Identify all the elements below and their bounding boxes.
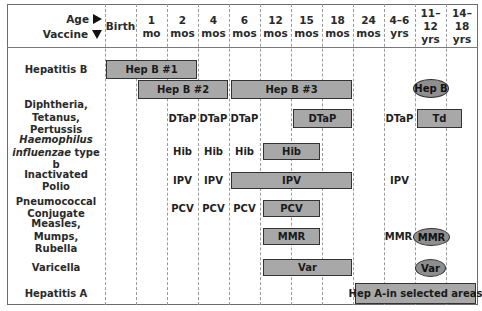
column-divider xyxy=(446,4,447,305)
column-divider xyxy=(260,4,261,305)
age-header-birth: Birth xyxy=(105,6,136,47)
row-label-text: Tetanus, xyxy=(32,112,80,125)
bar-label: Hep A-in selected areas xyxy=(349,288,482,299)
bar-label: Hep B #3 xyxy=(265,84,317,95)
range-bar-hepa: Hep A-in selected areas xyxy=(355,283,476,304)
age-header-unit: yrs xyxy=(421,33,439,46)
bar-label: DTaP xyxy=(309,113,337,124)
catch-up-oval-hepb: Hep B xyxy=(413,79,449,98)
dose-ipv-2mos: IPV xyxy=(167,175,198,187)
triangle-down-icon xyxy=(92,30,102,39)
dose-pcv-4mos: PCV xyxy=(198,203,229,215)
row-label-hepatitis-a: Hepatitis A xyxy=(10,286,102,302)
catch-up-oval-var: Var xyxy=(415,259,446,277)
dose-dtap-4-6yrs: DTaP xyxy=(384,113,415,125)
row-label-text: Rubella xyxy=(35,243,77,256)
dose-mmr-4-6yrs: MMR xyxy=(383,231,414,243)
dose-hib-2mos: Hib xyxy=(167,146,198,158)
catch-up-oval-mmr: MMR xyxy=(413,228,450,246)
range-bar-hepb1: Hep B #1 xyxy=(106,60,197,79)
age-header-text: Birth xyxy=(106,20,135,33)
row-label-text: Measles, Mumps, xyxy=(10,218,102,243)
age-header-unit: mos xyxy=(325,27,349,40)
age-header-text: 15 xyxy=(299,14,314,27)
row-label-text: influenzae xyxy=(12,147,71,158)
row-label-text: Polio xyxy=(42,181,70,194)
age-header-4mos: 4mos xyxy=(198,6,229,47)
age-header-unit: mos xyxy=(170,27,194,40)
age-header-unit: mos xyxy=(232,27,256,40)
age-header-text: 2 xyxy=(179,14,186,27)
age-header-unit: mos xyxy=(201,27,225,40)
bar-label: Hep B #2 xyxy=(157,84,209,95)
age-axis-label: Age xyxy=(66,12,89,27)
row-label-text: Inactivated xyxy=(24,169,88,182)
vaccine-axis-label: Vaccine xyxy=(43,27,88,42)
row-label-text: Diphtheria, xyxy=(24,99,88,112)
range-bar-hepb3: Hep B #3 xyxy=(231,80,352,99)
age-header-text: 4–6 xyxy=(390,14,410,27)
age-header-14-18yrs: 14–18yrs xyxy=(446,6,478,47)
row-label-varicella: Varicella xyxy=(10,260,102,276)
age-header-text: 18 xyxy=(330,14,345,27)
bar-label: Var xyxy=(298,262,317,273)
dose-dtap-4mos: DTaP xyxy=(198,113,229,125)
age-header-18mos: 18mos xyxy=(322,6,353,47)
dose-pcv-2mos: PCV xyxy=(167,203,198,215)
row-label-text: Hepatitis A xyxy=(25,288,88,301)
dose-pcv-6mos: PCV xyxy=(229,203,260,215)
oval-label: MMR xyxy=(418,232,446,243)
dose-dtap-6mos: DTaP xyxy=(229,113,260,125)
age-header-15mos: 15mos xyxy=(291,6,322,47)
bar-label: Hep B #1 xyxy=(125,64,177,75)
age-header-unit: mos xyxy=(294,27,318,40)
header-divider xyxy=(7,47,478,48)
triangle-right-icon xyxy=(93,14,102,24)
range-bar-dtap: DTaP xyxy=(293,109,352,128)
age-header-text: 24 xyxy=(361,14,376,27)
range-bar-hepb2: Hep B #2 xyxy=(138,80,228,99)
range-bar-hib: Hib xyxy=(263,143,320,160)
row-label-mmr: Measles, Mumps, Rubella xyxy=(10,224,102,250)
row-label-hib: Haemophilus influenzae type b xyxy=(10,140,102,166)
column-divider xyxy=(105,4,106,305)
age-header-unit: mos xyxy=(356,27,380,40)
column-divider xyxy=(415,4,416,305)
column-divider xyxy=(353,4,354,305)
range-bar-pcv: PCV xyxy=(263,200,320,217)
range-bar-mmr: MMR xyxy=(263,228,320,245)
oval-label: Hep B xyxy=(414,83,447,94)
age-header-text: 14–18 xyxy=(446,7,478,33)
column-divider xyxy=(384,4,385,305)
age-header-24mos: 24mos xyxy=(353,6,384,47)
bar-label: Td xyxy=(433,113,447,124)
bar-label: IPV xyxy=(282,175,301,186)
dose-dtap-2mos: DTaP xyxy=(167,113,198,125)
row-label-text: Haemophilus xyxy=(19,134,92,147)
age-header-11-12yrs: 11–12yrs xyxy=(415,6,446,47)
row-label-text: Pneumococcal xyxy=(16,196,96,209)
age-header-text: 11–12 xyxy=(415,7,446,33)
age-header-unit: mos xyxy=(263,27,287,40)
dose-hib-4mos: Hib xyxy=(198,146,229,158)
dose-ipv-4-6yrs: IPV xyxy=(384,175,415,187)
bar-label: MMR xyxy=(278,231,306,242)
bar-label: PCV xyxy=(280,203,302,214)
oval-label: Var xyxy=(421,263,440,274)
age-header-1mo: 1mo xyxy=(136,6,167,47)
row-label-polio: Inactivated Polio xyxy=(10,168,102,194)
range-bar-var: Var xyxy=(263,259,352,276)
age-header-unit: yrs xyxy=(453,33,471,46)
age-header-6mos: 6mos xyxy=(229,6,260,47)
corner-header: Age Vaccine xyxy=(10,6,102,47)
range-bar-ipv: IPV xyxy=(231,172,352,189)
age-header-text: 12 xyxy=(268,14,283,27)
row-label-hepatitis-b: Hepatitis B xyxy=(10,62,102,78)
age-header-unit: yrs xyxy=(390,27,408,40)
column-divider xyxy=(136,4,137,305)
bar-label: Hib xyxy=(282,146,301,157)
dose-ipv-4mos: IPV xyxy=(198,175,229,187)
row-label-dtp: Diphtheria, Tetanus, Pertussis xyxy=(10,98,102,138)
age-header-unit: mo xyxy=(142,27,160,40)
row-label-text: Varicella xyxy=(32,262,81,275)
